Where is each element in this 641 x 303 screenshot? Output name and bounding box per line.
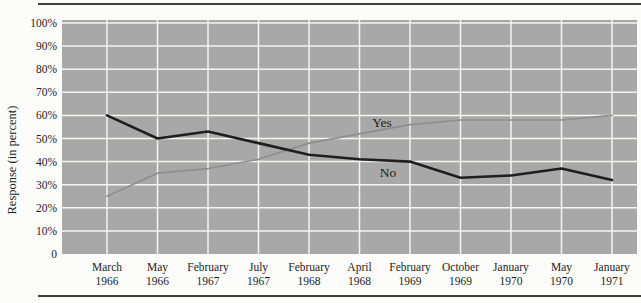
x-tick-label-month: February — [187, 261, 229, 274]
y-tick-label: 10% — [36, 225, 58, 237]
x-tick-label-month: February — [288, 261, 330, 274]
y-tick-label: 70% — [36, 86, 58, 98]
x-tick-label-year: 1970 — [550, 275, 573, 287]
y-tick-label: 30% — [36, 179, 58, 191]
x-tick-label-month: May — [551, 261, 572, 274]
series-label-yes: Yes — [372, 115, 392, 130]
x-tick-label-year: 1967 — [197, 275, 220, 287]
y-tick-label: 0 — [51, 248, 57, 260]
y-tick-label: 20% — [36, 202, 58, 214]
x-tick-label-year: 1966 — [146, 275, 169, 287]
x-tick-label-month: July — [249, 261, 268, 274]
x-tick-label-month: January — [493, 261, 529, 274]
x-tick-label-year: 1968 — [348, 275, 371, 287]
y-tick-label: 80% — [36, 63, 58, 75]
y-axis-title: Response (in percent) — [5, 106, 19, 215]
plot-area — [62, 20, 637, 254]
x-tick-label-year: 1971 — [601, 275, 624, 287]
top-divider-rule — [38, 3, 641, 5]
x-tick-label-month: May — [147, 261, 168, 274]
x-tick-label-year: 1969 — [449, 275, 472, 287]
x-tick-label-year: 1968 — [298, 275, 321, 287]
y-tick-label: 50% — [36, 133, 58, 145]
bottom-divider-rule — [38, 295, 641, 297]
x-tick-label-month: February — [389, 261, 431, 274]
y-tick-label: 40% — [36, 156, 58, 168]
x-tick-label-year: 1969 — [399, 275, 422, 287]
y-tick-label: 100% — [30, 17, 57, 29]
x-tick-label-year: 1966 — [96, 275, 119, 287]
y-tick-label: 90% — [36, 40, 58, 52]
x-tick-label-month: April — [347, 261, 371, 274]
line-chart: YesNo100%90%80%70%60%50%40%30%20%10%0Mar… — [0, 0, 641, 303]
x-tick-label-month: January — [594, 261, 630, 274]
y-tick-label: 60% — [36, 109, 58, 121]
vietnam-poll-line-chart-figure: YesNo100%90%80%70%60%50%40%30%20%10%0Mar… — [0, 0, 641, 303]
x-tick-label-month: March — [92, 261, 122, 273]
x-tick-label-month: October — [442, 261, 479, 273]
x-tick-label-year: 1967 — [247, 275, 270, 287]
x-tick-label-year: 1970 — [500, 275, 523, 287]
series-label-no: No — [380, 165, 397, 180]
